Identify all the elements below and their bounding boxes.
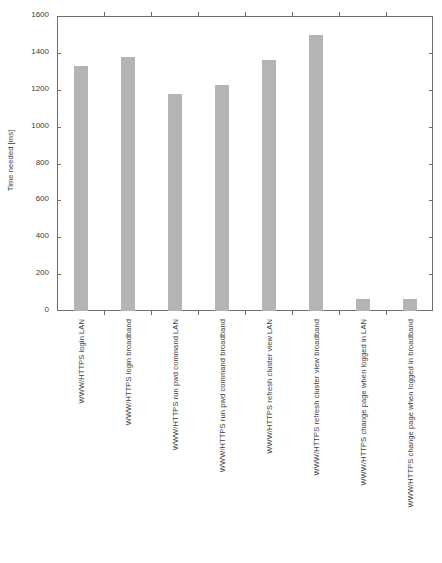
x-axis-tick-mark	[198, 311, 199, 315]
x-axis-category: WWW/HTTPS run pwd command LAN	[168, 319, 182, 559]
x-axis-tick-mark	[292, 311, 293, 315]
y-axis-tick-label: 200	[36, 268, 49, 277]
x-axis-category: WWW/HTTPS refresh cluster view LAN	[262, 319, 276, 559]
x-axis-category-label: WWW/HTTPS change page when logged in bro…	[405, 319, 414, 507]
x-axis-category-label: WWW/HTTPS change page when logged in LAN	[358, 319, 367, 486]
x-axis-category: WWW/HTTPS login broadband	[121, 319, 135, 559]
bar	[403, 299, 417, 311]
clipped-title	[57, 0, 433, 6]
y-axis-tick-label: 800	[36, 158, 49, 167]
x-axis-tick-mark-top	[151, 12, 152, 16]
x-axis-tick-mark-top	[339, 12, 340, 16]
x-axis-category-label: WWW/HTTPS run pwd command LAN	[170, 319, 179, 450]
bar	[262, 60, 276, 311]
x-axis-category: WWW/HTTPS login LAN	[74, 319, 88, 559]
x-axis-category-label: WWW/HTTPS refresh cluster view LAN	[264, 319, 273, 454]
x-axis-category-label: WWW/HTTPS login broadband	[123, 319, 132, 425]
x-axis-category-label: WWW/HTTPS login LAN	[76, 319, 85, 403]
bar	[309, 35, 323, 311]
x-axis-category-label: WWW/HTTPS refresh cluster view broadband	[311, 319, 320, 476]
x-axis-tick-mark	[104, 311, 105, 315]
x-axis-tick-mark-top	[245, 12, 246, 16]
x-axis-category: WWW/HTTPS change page when logged in bro…	[403, 319, 417, 559]
x-axis-tick-mark-top	[104, 12, 105, 16]
bar-chart: Time needed [ms] 02004006008001000120014…	[0, 0, 442, 563]
x-axis-tick-mark-top	[292, 12, 293, 16]
x-axis-tick-mark-top	[386, 12, 387, 16]
x-axis-category: WWW/HTTPS refresh cluster view broadband	[309, 319, 323, 559]
x-axis-category: WWW/HTTPS run pwd command broadband	[215, 319, 229, 559]
y-axis-tick-label: 1200	[31, 84, 49, 93]
x-axis-tick-mark	[151, 311, 152, 315]
bar	[168, 94, 182, 311]
x-axis-category: WWW/HTTPS change page when logged in LAN	[356, 319, 370, 559]
y-axis-tick-label: 0	[45, 305, 49, 314]
y-axis-tick-label: 600	[36, 194, 49, 203]
y-axis-tick-label: 1000	[31, 121, 49, 130]
y-axis-tick-label: 400	[36, 231, 49, 240]
x-axis-category-label: WWW/HTTPS run pwd command broadband	[217, 319, 226, 472]
y-axis-title: Time needed [ms]	[0, 0, 22, 320]
bar	[215, 85, 229, 311]
bar	[121, 57, 135, 311]
y-axis-tick-label: 1400	[31, 47, 49, 56]
bars-layer	[57, 16, 433, 311]
x-axis-tick-mark	[386, 311, 387, 315]
x-axis-tick-mark-top	[198, 12, 199, 16]
x-axis-tick-mark	[339, 311, 340, 315]
bar	[356, 299, 370, 311]
x-axis-tick-mark	[245, 311, 246, 315]
y-axis-tick-label: 1600	[31, 10, 49, 19]
bar	[74, 66, 88, 311]
y-axis-title-label: Time needed [ms]	[7, 129, 16, 190]
